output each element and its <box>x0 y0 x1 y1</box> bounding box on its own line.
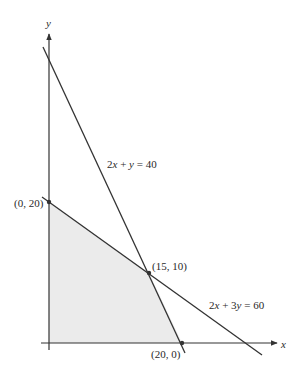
vertex-dot-15-10 <box>147 271 151 275</box>
y-axis-label: y <box>45 17 51 29</box>
vertex-label-15-10: (15, 10) <box>152 260 187 273</box>
vertex-label-20-0: (20, 0) <box>151 348 181 361</box>
vertex-dot-0-20 <box>47 200 51 204</box>
x-axis-label: x <box>280 338 286 350</box>
vertex-label-0-20: (0, 20) <box>14 197 44 210</box>
line-label-2x-plus-y-eq-40: 2x + y = 40 <box>107 158 157 170</box>
line-label-2x-plus-3y-eq-60: 2x + 3y = 60 <box>209 299 265 311</box>
vertex-dot-20-0 <box>180 341 184 345</box>
lp-diagram: y x 2x + y = 40 2x + 3y = 60 (0, 20) (15… <box>0 0 301 376</box>
feasible-region <box>49 202 182 343</box>
